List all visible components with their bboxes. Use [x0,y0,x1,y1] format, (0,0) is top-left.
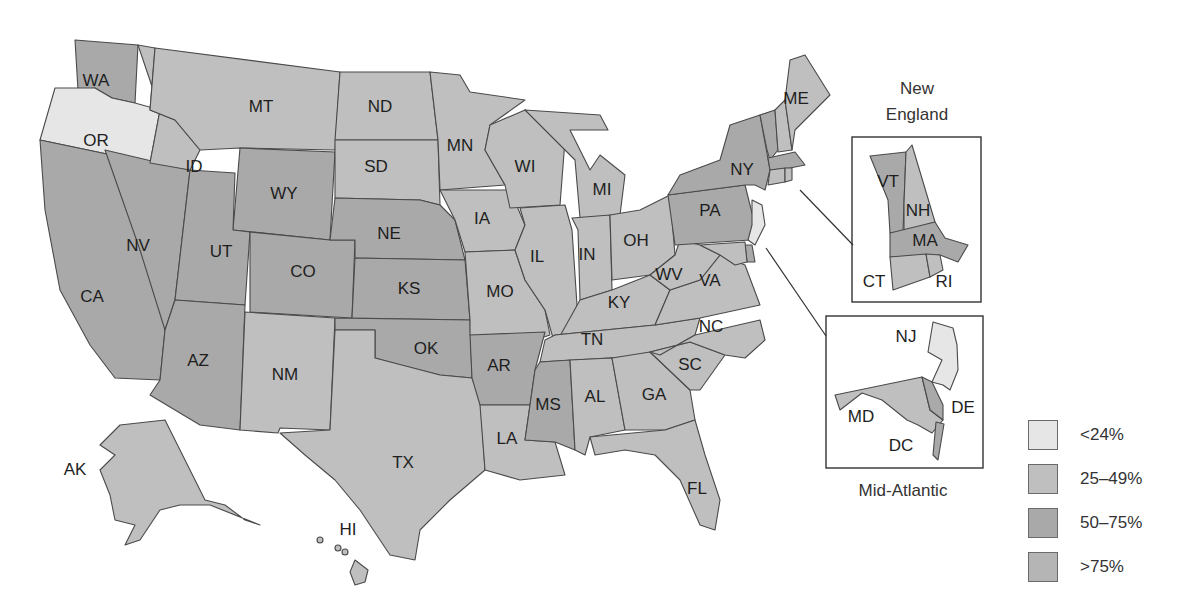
label-MT: MT [249,97,274,116]
label-KY: KY [608,293,631,312]
inset-state-VT[interactable] [870,152,906,233]
state-CT[interactable] [768,168,785,185]
legend-swatch [1028,552,1058,582]
label-MO: MO [486,282,513,301]
label-WY: WY [270,184,297,203]
inset-state-NJ[interactable] [928,322,958,390]
inset-label-CT: CT [863,272,886,291]
label-IA: IA [474,209,491,228]
label-MN: MN [447,136,473,155]
label-NV: NV [126,236,150,255]
label-HI: HI [340,520,357,539]
inset-label-VT: VT [877,172,899,191]
inset-label-NH: NH [906,201,931,220]
state-FL[interactable] [590,420,720,530]
leader-line-new-england [800,190,853,245]
label-CO: CO [290,262,316,281]
label-KS: KS [398,279,421,298]
label-NM: NM [272,365,298,384]
label-WI: WI [515,157,536,176]
legend-item-lt24: <24% [1028,413,1142,457]
legend-label: >75% [1080,557,1124,577]
inset-new-england-title-1: New [900,79,935,98]
state-NY[interactable] [668,115,770,195]
inset-new-england-title-2: England [886,105,948,124]
label-NY: NY [730,160,754,179]
legend-swatch [1028,508,1058,538]
label-SC: SC [678,355,702,374]
label-ME: ME [783,89,809,108]
inset-label-MA: MA [912,231,938,250]
label-NE: NE [377,224,401,243]
label-AL: AL [585,387,606,406]
label-VA: VA [699,271,721,290]
label-WA: WA [83,71,110,90]
state-AK[interactable] [100,420,260,545]
label-FL: FL [687,479,707,498]
legend-label: 50–75% [1080,513,1142,533]
label-WV: WV [655,265,683,284]
label-NC: NC [699,317,724,336]
label-ND: ND [368,97,393,116]
legend-label: 25–49% [1080,469,1142,489]
state-HI[interactable] [350,560,368,585]
label-TX: TX [392,453,414,472]
inset-label-MD: MD [848,407,874,426]
label-MS: MS [535,395,561,414]
label-TN: TN [581,330,604,349]
label-IN: IN [579,245,596,264]
inset-label-RI: RI [936,272,953,291]
label-OH: OH [623,231,649,250]
legend-label: <24% [1080,425,1124,445]
label-AK: AK [64,460,87,479]
leader-line-mid-atlantic [766,248,826,336]
legend: <24% 25–49% 50–75% >75% [1028,413,1142,589]
label-OK: OK [414,339,439,358]
legend-item-50-75: 50–75% [1028,501,1142,545]
label-MI: MI [593,180,612,199]
label-IL: IL [530,247,544,266]
label-UT: UT [210,242,233,261]
label-SD: SD [364,157,388,176]
label-GA: GA [642,385,667,404]
legend-swatch [1028,420,1058,450]
inset-state-CT[interactable] [890,254,930,290]
inset-label-NJ: NJ [896,327,917,346]
us-choropleth-map: WA OR CA NV ID MT WY UT CO AZ NM ND SD N… [0,0,1187,616]
label-AR: AR [487,356,511,375]
inset-mid-atlantic-title: Mid-Atlantic [859,481,948,500]
label-AZ: AZ [187,351,209,370]
label-LA: LA [497,429,518,448]
legend-item-gt75: >75% [1028,545,1142,589]
label-ID: ID [186,157,203,176]
inset-label-DC: DC [889,436,914,455]
state-RI[interactable] [785,168,792,182]
inset-label-DE: DE [951,398,975,417]
label-CA: CA [80,287,104,306]
legend-item-25-49: 25–49% [1028,457,1142,501]
label-OR: OR [83,131,109,150]
label-PA: PA [699,201,721,220]
legend-swatch [1028,464,1058,494]
